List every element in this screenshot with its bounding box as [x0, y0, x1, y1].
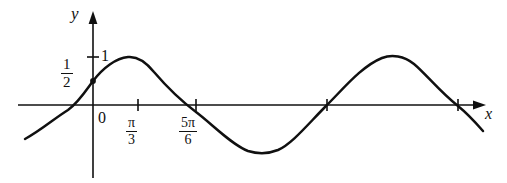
point-y-intercept-half: [90, 78, 96, 84]
five-pi-over-6-pi-symbol: π: [188, 115, 195, 130]
one-half-numerator: 1: [61, 57, 73, 72]
origin-label: 0: [98, 110, 106, 126]
graph-canvas: [0, 0, 507, 183]
five-pi-over-6-coefficient: 5: [181, 115, 188, 130]
five-pi-over-6-numerator: 5π: [179, 116, 197, 130]
one-half-denominator: 2: [61, 75, 73, 90]
pi-over-3-denominator: 3: [126, 133, 137, 147]
x-tick-label-pi-over-3: π 3: [126, 116, 137, 148]
sine-curve-figure: y x 0 1 1 2 π 3 5π 6: [0, 0, 507, 183]
y-axis-label: y: [71, 5, 79, 22]
y-axis-arrowhead: [89, 11, 98, 24]
x-axis-label: x: [485, 106, 492, 122]
y-tick-label-one: 1: [101, 48, 109, 64]
five-pi-over-6-denominator: 6: [179, 133, 197, 147]
pi-over-3-numerator: π: [126, 116, 137, 130]
y-value-label-one-half: 1 2: [61, 57, 73, 91]
x-tick-label-5pi-over-6: 5π 6: [179, 116, 197, 148]
